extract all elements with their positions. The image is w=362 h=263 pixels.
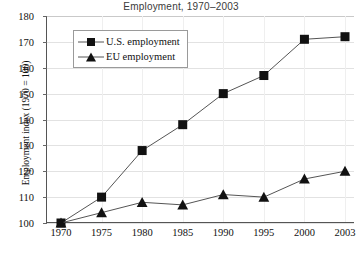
y-tick-label-130: 130: [0, 140, 34, 151]
square-marker-icon: [78, 36, 104, 48]
data-point-square-2000: [300, 35, 309, 44]
y-tick-label-160: 160: [0, 62, 34, 73]
y-tick-label-180: 180: [0, 11, 34, 22]
employment-line-chart: Employment, 1970–2003 Employment index (…: [0, 0, 362, 263]
legend-item-us: U.S. employment: [78, 34, 180, 49]
legend-label-us: U.S. employment: [104, 36, 180, 47]
data-point-triangle-1975: [96, 207, 107, 217]
data-point-square-1990: [219, 89, 228, 98]
legend-item-eu: EU employment: [78, 49, 180, 64]
triangle-marker-icon: [78, 51, 104, 63]
data-point-square-1995: [259, 71, 268, 80]
data-point-triangle-1980: [137, 197, 148, 207]
y-tick-label-150: 150: [0, 88, 34, 99]
y-tick-label-110: 110: [0, 192, 34, 203]
y-tick-label-100: 100: [0, 218, 34, 229]
chart-legend: U.S. employment EU employment: [73, 30, 188, 68]
x-tick-label-2003: 2003: [321, 227, 362, 238]
data-point-square-2003: [341, 32, 350, 41]
data-point-square-1980: [138, 146, 147, 155]
data-point-triangle-2003: [340, 166, 351, 176]
legend-label-eu: EU employment: [104, 51, 175, 62]
data-point-square-1985: [178, 120, 187, 129]
chart-title: Employment, 1970–2003: [0, 1, 362, 12]
y-tick-mark-100: [43, 223, 47, 224]
y-tick-label-120: 120: [0, 166, 34, 177]
gridline-y-100: [47, 223, 354, 224]
y-tick-label-140: 140: [0, 114, 34, 125]
y-tick-label-170: 170: [0, 36, 34, 47]
data-point-square-1975: [97, 193, 106, 202]
data-point-triangle-1990: [218, 189, 229, 199]
